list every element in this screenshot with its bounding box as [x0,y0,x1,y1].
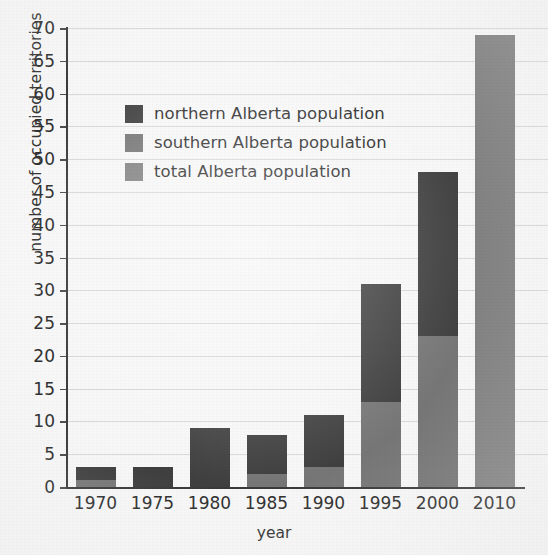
x-tick-label: 2010 [464,493,526,513]
legend-swatch [125,163,143,181]
legend-swatch [125,105,143,123]
y-tick-label: 30 [15,280,55,300]
x-tick-label: 1970 [65,493,127,513]
x-tick-label: 1985 [236,493,298,513]
legend-item: southern Alberta population [125,128,387,157]
bar-segment-northern [247,435,287,474]
y-tick-label: 10 [15,411,55,431]
bar-segment-southern [76,480,116,487]
legend-item: northern Alberta population [125,99,387,128]
legend-item: total Alberta population [125,157,387,186]
bar-segment-southern [304,467,344,487]
bar-segment-southern [361,402,401,487]
plot-area [67,28,523,487]
y-tick-label: 45 [15,182,55,202]
y-tick-label: 65 [15,51,55,71]
y-tick-label: 5 [15,444,55,464]
x-tick-label: 1975 [122,493,184,513]
y-axis-title: number of occupied territories [25,0,47,277]
y-tick-label: 60 [15,84,55,104]
bar-group [418,28,458,487]
legend-label: total Alberta population [154,162,351,181]
bar-group [247,28,287,487]
y-tick-label: 55 [15,116,55,136]
bar-group [133,28,173,487]
x-axis-title: year [0,524,548,542]
bar-group [76,28,116,487]
bar-segment-northern [133,467,173,487]
chart-legend: northern Alberta populationsouthern Albe… [125,99,387,186]
legend-swatch [125,134,143,152]
x-tick-label: 1980 [179,493,241,513]
legend-label: southern Alberta population [154,133,387,152]
x-tick-label: 1995 [350,493,412,513]
y-tick-label: 50 [15,149,55,169]
bar-segment-northern [418,172,458,336]
bar-segment-southern [247,474,287,487]
bar-segment-northern [190,428,230,487]
x-axis-line [66,487,525,489]
y-tick-label: 70 [15,18,55,38]
legend-label: northern Alberta population [154,104,385,123]
y-tick-label: 15 [15,379,55,399]
y-tick-label: 25 [15,313,55,333]
chart-figure: number of occupied territories 051015202… [0,0,548,555]
y-tick-label: 40 [15,215,55,235]
x-tick-label: 2000 [407,493,469,513]
bar-group [190,28,230,487]
bar-segment-total [475,35,515,487]
y-tick-label: 35 [15,248,55,268]
bar-group [361,28,401,487]
bar-segment-northern [304,415,344,467]
bar-segment-northern [76,467,116,480]
bar-group [304,28,344,487]
bar-segment-southern [418,336,458,487]
y-tick-label: 0 [15,477,55,497]
bar-segment-northern [361,284,401,402]
bar-group [475,28,515,487]
x-tick-label: 1990 [293,493,355,513]
y-tick-label: 20 [15,346,55,366]
